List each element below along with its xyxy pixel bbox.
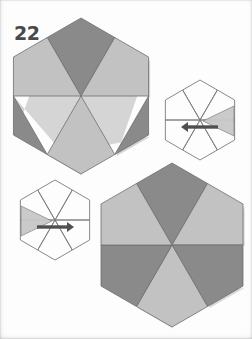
fold-arrow-head — [67, 222, 74, 232]
fold-flap-shape — [203, 106, 234, 136]
wire-rhombus-4 — [165, 120, 200, 150]
wireframe-star-with-fold-arrow-right — [165, 80, 234, 160]
wire-rhombus-2 — [55, 220, 90, 250]
figure-number-label: 22 — [14, 22, 39, 44]
fold-flap-shape — [21, 206, 52, 236]
wire-rhombus-5 — [165, 90, 200, 120]
figure-canvas — [0, 0, 252, 339]
wire-rhombus-0 — [183, 80, 218, 120]
wire-rhombus-0 — [38, 180, 73, 220]
wire-rhombus-1 — [55, 190, 90, 220]
figure-page: 22 — [0, 0, 252, 339]
completed-star-lower-right — [101, 163, 245, 329]
wireframe-star-with-fold-arrow-left — [20, 180, 89, 260]
fold-arrow-head — [181, 122, 188, 132]
